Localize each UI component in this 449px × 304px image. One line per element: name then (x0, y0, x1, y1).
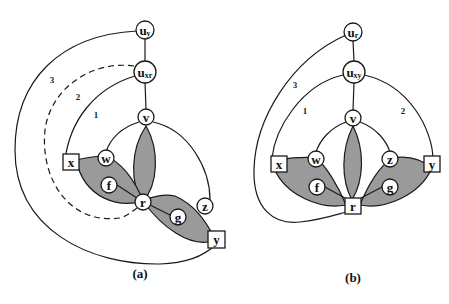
svg-text:g: g (387, 180, 394, 195)
edge-uxr-v (145, 82, 146, 109)
node-r: r (135, 194, 151, 210)
figure-canvas: 3 2 1 uy uxr v w f r g (0, 0, 449, 304)
node-u-xy: uxy (343, 61, 365, 83)
edge-v-w (106, 122, 139, 152)
node-y: y (208, 231, 225, 248)
node-v: v (345, 110, 361, 126)
node-u-r: ur (344, 23, 362, 41)
node-g: g (170, 209, 186, 225)
node-x: x (63, 154, 79, 170)
lobe-v-r (344, 126, 362, 200)
panel-b: 3 1 2 ur uxy v w f z g (254, 23, 440, 285)
panel-a: 3 2 1 uy uxr v w f r g (15, 21, 225, 281)
node-y: y (424, 156, 440, 172)
svg-text:v: v (143, 110, 150, 125)
edge-uxy-v (353, 83, 354, 110)
edge-2-b (364, 75, 433, 158)
node-w: w (98, 150, 114, 166)
svg-text:r: r (140, 195, 146, 210)
edge-label-2: 2 (401, 106, 406, 116)
edge-label-1: 1 (303, 106, 308, 116)
edge-v-z (153, 122, 210, 200)
edge-ur-uxy (353, 41, 354, 61)
edge-label-3: 3 (293, 80, 298, 90)
node-w: w (308, 151, 324, 167)
edge-v-z (360, 122, 390, 152)
svg-text:f: f (107, 178, 112, 193)
svg-text:z: z (202, 199, 208, 214)
svg-text:w: w (311, 152, 321, 167)
node-z: z (382, 151, 398, 167)
node-u-y: uy (136, 21, 154, 39)
svg-text:x: x (68, 155, 75, 170)
svg-text:w: w (101, 151, 111, 166)
node-u-xr: uxr (134, 61, 156, 83)
caption-a: (a) (132, 266, 147, 281)
caption-b: (b) (345, 270, 361, 285)
node-x: x (271, 156, 287, 172)
edge-label-3: 3 (50, 75, 55, 85)
edge-label-2: 2 (76, 92, 81, 102)
edge-v-w (316, 122, 346, 152)
node-z: z (197, 198, 213, 214)
node-f: f (101, 177, 117, 193)
node-f: f (309, 179, 325, 195)
node-g: g (382, 179, 398, 195)
edge-label-1: 1 (94, 110, 99, 120)
edge-1-a (65, 76, 135, 160)
svg-text:x: x (276, 157, 283, 172)
svg-text:g: g (175, 210, 182, 225)
svg-text:v: v (350, 111, 357, 126)
svg-text:y: y (429, 157, 436, 172)
node-v: v (138, 109, 154, 125)
node-r: r (345, 198, 361, 214)
svg-text:y: y (213, 232, 220, 247)
svg-text:z: z (387, 152, 393, 167)
svg-text:f: f (315, 180, 320, 195)
svg-text:r: r (350, 199, 356, 214)
